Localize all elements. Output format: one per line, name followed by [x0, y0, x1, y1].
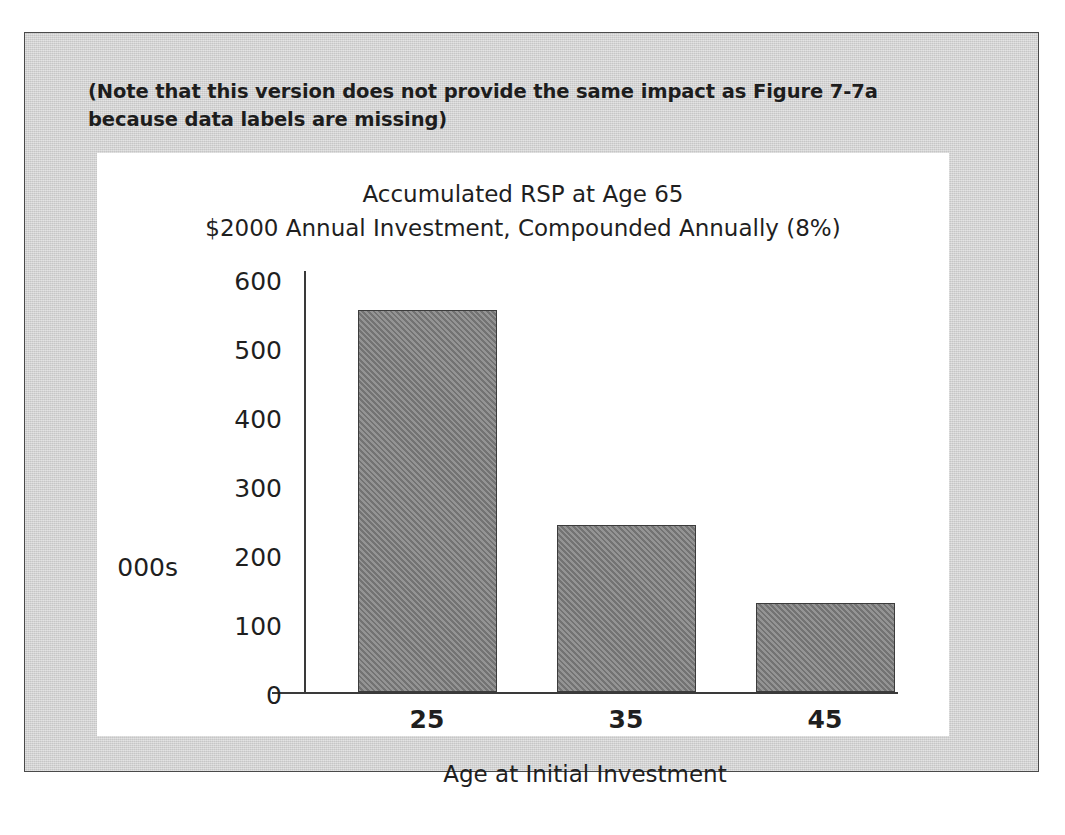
y-tick-label-200: 200 [192, 545, 282, 570]
chart-title-block: Accumulated RSP at Age 65 $2000 Annual I… [97, 177, 949, 245]
y-axis-title: 000s [68, 555, 178, 580]
y-axis-line [304, 271, 306, 693]
y-tick-label-300: 300 [192, 476, 282, 501]
bar-age-35[interactable] [557, 525, 696, 692]
bar-age-45[interactable] [756, 603, 895, 692]
chart-plate: Accumulated RSP at Age 65 $2000 Annual I… [97, 153, 949, 736]
y-tick-label-600: 600 [192, 269, 282, 294]
plot-area: 000s 0 100 200 300 400 500 600 25 35 45 … [304, 271, 904, 697]
y-tick-label-400: 400 [192, 407, 282, 432]
x-axis-line [272, 692, 898, 694]
figure-frame: (Note that this version does not provide… [24, 32, 1039, 772]
y-tick-label-100: 100 [192, 614, 282, 639]
chart-subtitle: $2000 Annual Investment, Compounded Annu… [97, 211, 949, 245]
x-tick-label-25: 25 [337, 707, 517, 732]
y-tick-label-500: 500 [192, 338, 282, 363]
x-tick-label-35: 35 [536, 707, 716, 732]
figure-note-text: (Note that this version does not provide… [88, 78, 948, 133]
x-axis-title: Age at Initial Investment [272, 763, 898, 786]
bar-age-25[interactable] [358, 310, 497, 692]
chart-title: Accumulated RSP at Age 65 [97, 177, 949, 211]
x-tick-label-45: 45 [735, 707, 915, 732]
y-tick-label-0: 0 [192, 683, 282, 708]
